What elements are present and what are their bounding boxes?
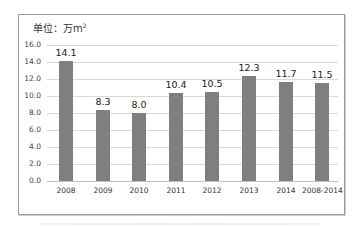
faint-caption xyxy=(40,223,320,225)
x-tick-label: 2010 xyxy=(119,187,159,195)
y-tick-label: 6.0 xyxy=(11,126,41,134)
y-gridline xyxy=(47,164,338,165)
bar-2010 xyxy=(132,113,146,181)
y-tick-label: 14.0 xyxy=(11,58,41,66)
y-tick-label: 0.0 xyxy=(11,177,41,185)
bar-2008-2014 xyxy=(315,83,329,181)
y-tick-label: 12.0 xyxy=(11,75,41,83)
y-tick-label: 2.0 xyxy=(11,160,41,168)
x-tick-label: 2014 xyxy=(266,187,306,195)
bar-2014 xyxy=(279,82,293,181)
bar-2013 xyxy=(242,76,256,181)
bar-value-label: 11.7 xyxy=(268,69,304,79)
bar-value-label: 10.4 xyxy=(158,80,194,90)
bar-value-label: 11.5 xyxy=(304,70,340,80)
bar-chart-plot: 0.02.04.06.08.010.012.014.016.014.120088… xyxy=(0,0,359,226)
y-tick-label: 8.0 xyxy=(11,109,41,117)
x-tick-label: 2008 xyxy=(46,187,86,195)
x-tick-label: 2009 xyxy=(83,187,123,195)
bar-value-label: 8.0 xyxy=(121,100,157,110)
x-tick-label: 2011 xyxy=(156,187,196,195)
bar-value-label: 10.5 xyxy=(194,79,230,89)
bar-2009 xyxy=(96,110,110,181)
bar-value-label: 12.3 xyxy=(231,63,267,73)
y-tick-label: 4.0 xyxy=(11,143,41,151)
y-tick-label: 10.0 xyxy=(11,92,41,100)
bar-2012 xyxy=(205,92,219,181)
bar-value-label: 14.1 xyxy=(48,48,84,58)
bar-2008 xyxy=(59,61,73,181)
y-gridline xyxy=(47,45,338,46)
x-axis-line xyxy=(47,181,338,182)
x-tick-label: 2012 xyxy=(192,187,232,195)
y-gridline xyxy=(47,62,338,63)
bar-2011 xyxy=(169,93,183,181)
y-gridline xyxy=(47,130,338,131)
y-tick-label: 16.0 xyxy=(11,41,41,49)
x-tick-label: 2013 xyxy=(229,187,269,195)
y-gridline xyxy=(47,113,338,114)
bar-value-label: 8.3 xyxy=(85,97,121,107)
y-gridline xyxy=(47,147,338,148)
x-tick-label: 2008-2014 xyxy=(302,187,342,195)
